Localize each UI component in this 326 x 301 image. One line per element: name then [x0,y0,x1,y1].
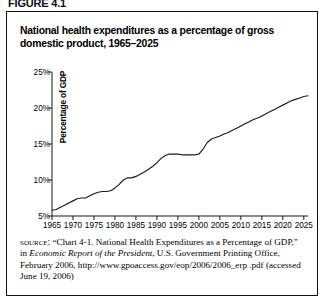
chart-plot-area: Percentage of GDP 5%10%15%20%25% 1965197… [16,66,312,232]
figure-box: National health expenditures as a percen… [6,11,318,296]
figure-label: FIGURE 4.1 [8,0,66,9]
source-label: source: [20,236,50,247]
source-note: source: “Chart 4-1. National Health Expe… [20,236,305,282]
chart-title: National health expenditures as a percen… [20,24,290,50]
line-chart-svg [16,66,312,232]
source-publication-title: Economic Report of the President [29,248,152,258]
